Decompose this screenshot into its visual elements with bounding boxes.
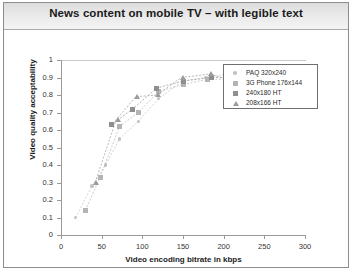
legend-item: 3G Phone 176x144 [224,78,317,88]
diamond-marker [233,71,237,75]
filled-square-marker [233,91,238,96]
data-point [117,124,122,129]
data-point [83,208,88,213]
data-point [134,94,140,99]
page-title: News content on mobile TV – with legible… [4,7,348,19]
legend-label: 3G Phone 176x144 [246,78,302,88]
series-line [95,74,233,183]
data-point [154,86,159,91]
chart-legend: PAQ 320x2403G Phone 176x144240x180 HT208… [223,64,318,109]
data-point [115,117,121,122]
data-point [90,184,94,188]
square-marker [233,81,238,86]
legend-item: PAQ 320x240 [224,68,317,78]
title-band: News content on mobile TV – with legible… [4,3,348,30]
data-point [118,137,122,141]
legend-item: 240x180 HT [224,88,317,98]
legend-item: 208x166 HT [224,98,317,108]
data-point [136,110,141,115]
data-point [180,75,186,80]
triangle-marker [233,101,239,106]
data-point [155,92,161,97]
data-point [137,120,141,124]
data-point [109,122,114,127]
legend-label: 240x180 HT [246,88,281,98]
chart-canvas: 00.10.20.30.40.50.60.70.80.91 0501001502… [8,33,345,266]
legend-label: PAQ 320x240 [246,68,286,78]
legend-label: 208x166 HT [246,98,281,108]
series-line [111,78,235,125]
data-point [93,180,99,185]
data-point [208,71,214,76]
data-point [130,107,135,112]
slide: News content on mobile TV – with legible… [3,2,349,268]
